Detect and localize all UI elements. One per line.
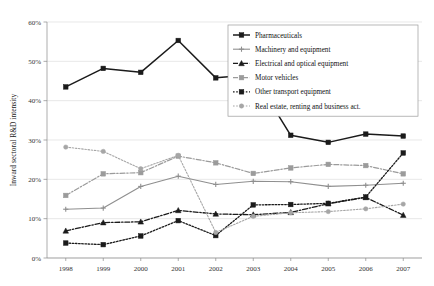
data-point xyxy=(138,70,143,75)
data-point xyxy=(176,38,181,43)
data-point xyxy=(401,202,405,206)
legend-label: Motor vehicles xyxy=(255,74,299,82)
x-tick-label: 2007 xyxy=(396,265,411,273)
data-point xyxy=(326,201,331,206)
x-tick-label: 2006 xyxy=(359,265,374,273)
line-chart: 0%10%20%30%40%50%60%19981999200020012002… xyxy=(0,0,434,286)
x-tick-label: 2003 xyxy=(246,265,261,273)
y-tick-label: 50% xyxy=(28,58,41,66)
data-point xyxy=(251,203,256,208)
data-point xyxy=(401,151,406,156)
legend-label: Pharmaceuticals xyxy=(255,32,302,40)
data-point xyxy=(101,66,106,71)
legend-label: Machinery and equipment xyxy=(255,46,330,54)
data-point xyxy=(176,218,181,223)
data-point xyxy=(251,214,255,218)
data-point xyxy=(214,230,218,234)
y-tick-label: 60% xyxy=(28,19,41,27)
legend: PharmaceuticalsMachinery and equipmentEl… xyxy=(228,25,418,116)
series-line xyxy=(66,153,404,245)
chart-container: 0%10%20%30%40%50%60%19981999200020012002… xyxy=(0,0,434,286)
data-point xyxy=(401,172,406,177)
data-point xyxy=(288,202,293,207)
data-point xyxy=(326,140,331,145)
y-tick-label: 20% xyxy=(28,176,41,184)
data-point xyxy=(63,193,68,198)
x-tick-label: 2000 xyxy=(134,265,149,273)
legend-marker xyxy=(239,33,244,38)
data-point xyxy=(138,234,143,239)
data-point xyxy=(64,145,68,149)
data-point xyxy=(63,85,68,90)
data-point xyxy=(364,207,368,211)
x-axis: 1998199920002001200220032004200520062007 xyxy=(59,258,411,273)
data-point xyxy=(213,76,218,81)
y-axis-title: Inward sectoral R&D intensity xyxy=(9,94,18,187)
data-point xyxy=(101,242,106,247)
series-line xyxy=(66,147,404,232)
series-line xyxy=(66,197,404,230)
series-line xyxy=(66,176,404,209)
series-3 xyxy=(63,154,405,198)
legend-label: Other transport equipment xyxy=(255,88,331,96)
x-tick-label: 1999 xyxy=(96,265,111,273)
legend-label: Real estate, renting and business act. xyxy=(255,103,361,111)
data-point xyxy=(363,132,368,137)
y-tick-label: 10% xyxy=(28,215,41,223)
series-2 xyxy=(63,195,406,234)
x-tick-label: 1998 xyxy=(59,265,74,273)
data-point xyxy=(63,241,68,246)
data-point xyxy=(251,171,256,176)
x-tick-label: 2004 xyxy=(284,265,299,273)
data-point xyxy=(288,166,293,171)
data-point xyxy=(101,149,105,153)
legend-label: Electrical and optical equipment xyxy=(255,60,348,68)
legend-marker xyxy=(239,90,244,95)
y-tick-label: 0% xyxy=(32,255,42,263)
data-point xyxy=(326,209,330,213)
y-tick-label: 40% xyxy=(28,97,41,105)
series-line xyxy=(66,156,404,195)
data-point xyxy=(101,172,106,177)
legend-marker xyxy=(239,75,244,80)
x-tick-label: 2001 xyxy=(171,265,186,273)
legend-marker xyxy=(239,104,243,108)
data-point xyxy=(213,161,218,166)
x-tick-label: 2002 xyxy=(209,265,224,273)
data-point xyxy=(176,153,180,157)
data-point xyxy=(363,163,368,168)
series-5 xyxy=(64,145,406,235)
data-point xyxy=(363,195,368,200)
x-tick-label: 2005 xyxy=(321,265,336,273)
y-axis-title-group: Inward sectoral R&D intensity xyxy=(9,94,18,187)
data-point xyxy=(289,211,293,215)
data-point xyxy=(139,167,143,171)
data-point xyxy=(326,162,331,167)
y-tick-label: 30% xyxy=(28,137,41,145)
data-point xyxy=(288,133,293,138)
data-point xyxy=(401,134,406,139)
